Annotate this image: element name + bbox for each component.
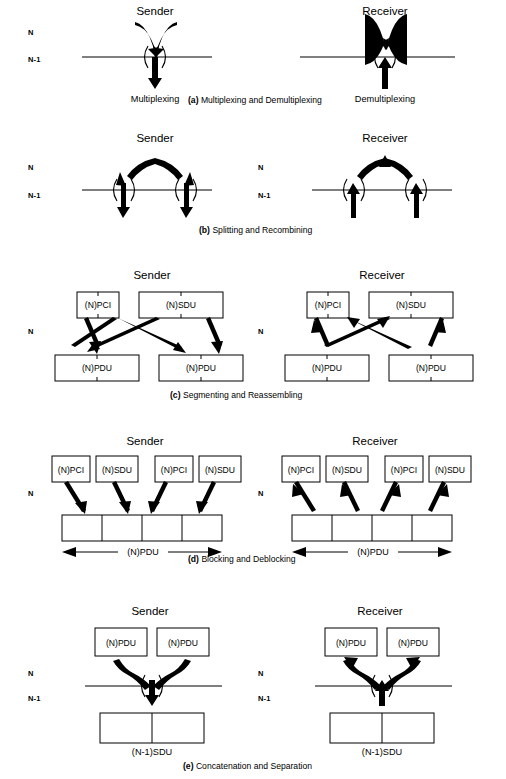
panel-a-layer-n: N [28,28,34,37]
panel-c-receiver-box-pdu-1: (N)PDU [312,363,342,373]
panel-e-concatenation: Sender Receiver N N-1 N N-1 (N)PDU (N)PD… [0,598,506,758]
panel-c-sender-box-pdu-1: (N)PDU [82,363,112,373]
panel-d-receiver-box-2: (N)SDU [332,465,362,475]
panel-c-receiver-title: Receiver [359,269,405,281]
panel-a-caption: (a) Multiplexing and Demultiplexing [188,96,322,105]
panel-b-receiver-graphic [312,155,452,218]
panel-d-receiver-graphic: (N)PCI (N)SDU (N)PCI (N)SDU (N)PDU [282,456,471,559]
panel-d-caption-text: Blocking and Deblocking [201,554,295,564]
panel-c-caption: (c) Segmenting and Reassembling [170,391,302,400]
panel-e-caption: (e) Concatenation and Separation [183,762,312,771]
panel-a-sender-graphic: Multiplexing [82,22,212,104]
panel-b-layer-n1: N-1 [28,191,41,200]
panel-c-caption-tag: (c) [170,390,181,400]
panel-b-sender-graphic [82,158,212,218]
panel-b-caption-tag: (b) [199,225,210,235]
panel-d-blocking: Sender Receiver N N (N)PCI (N)SDU (N)PCI… [0,428,506,563]
panel-b-layer-n-r: N [258,163,264,172]
panel-d-receiver-box-4: (N)SDU [435,465,465,475]
panel-e-sender-bottom-label: (N-1)SDU [132,747,172,757]
panel-d-sender-graphic: (N)PCI (N)SDU (N)PCI (N)SDU (N)PDU [52,456,241,559]
panel-a-receiver-op-label: Demultiplexing [355,94,415,104]
panel-c-receiver-graphic: (N)PCI (N)SDU (N)PDU (N)PDU [285,292,473,381]
panel-d-receiver-box-1: (N)PCI [288,465,314,475]
figure-root: Sender Receiver N N-1 Multiplexing Demul… [0,0,506,779]
panel-e-sender-title: Sender [131,605,168,617]
panel-a-sender-op-label: Multiplexing [131,94,180,104]
panel-c-layer-n-r: N [258,327,264,336]
panel-c-layer-n: N [28,327,34,336]
panel-e-sender-box-2: (N)PDU [168,638,198,648]
panel-e-sender-graphic: (N)PDU (N)PDU (N-1)SDU [85,628,222,757]
panel-e-layer-n-r: N [258,669,264,678]
panel-d-receiver-dim-label: (N)PDU [357,547,389,557]
panel-c-sender-title: Sender [133,269,170,281]
panel-d-caption: (d) Blocking and Deblocking [188,555,296,564]
panel-e-layer-n: N [28,669,34,678]
panel-a-receiver-graphic: Demultiplexing [300,14,455,104]
panel-d-layer-n: N [28,489,34,498]
panel-c-sender-graphic: (N)PCI (N)SDU (N)PDU (N)PDU [55,292,243,381]
panel-d-sender-title: Sender [126,435,163,447]
panel-e-receiver-box-1: (N)PDU [336,638,366,648]
panel-c-receiver-box-pci: (N)PCI [315,300,341,310]
panel-b-caption: (b) Splitting and Recombining [199,226,312,235]
panel-b-caption-text: Splitting and Recombining [212,225,312,235]
panel-d-sender-box-1: (N)PCI [58,465,84,475]
panel-b-layer-n: N [28,163,34,172]
panel-e-receiver-bottom-label: (N-1)SDU [362,747,402,757]
panel-e-receiver-graphic: (N)PDU (N)PDU (N-1)SDU [315,628,452,757]
panel-e-layer-n1-r: N-1 [258,694,271,703]
panel-a-caption-tag: (a) [188,95,199,105]
panel-b-layer-n1-r: N-1 [258,191,271,200]
panel-d-sender-box-3: (N)PCI [161,465,187,475]
panel-d-layer-n-r: N [258,489,264,498]
panel-d-sender-dim-label: (N)PDU [127,547,159,557]
panel-b-sender-title: Sender [136,132,173,144]
panel-a-layer-n1: N-1 [28,55,41,64]
panel-c-sender-box-pdu-2: (N)PDU [186,363,216,373]
panel-c-segmenting: Sender Receiver N N (N)PCI (N)SDU (N)PDU… [0,262,506,397]
panel-d-receiver-box-3: (N)PCI [391,465,417,475]
panel-a-receiver-title: Receiver [362,5,408,17]
panel-a-sender-title: Sender [136,5,173,17]
panel-d-sender-box-4: (N)SDU [205,465,235,475]
panel-c-sender-box-sdu: (N)SDU [166,300,196,310]
panel-c-receiver-box-sdu: (N)SDU [396,300,426,310]
panel-d-receiver-title: Receiver [352,435,398,447]
panel-e-layer-n1: N-1 [28,694,41,703]
panel-e-caption-text: Concatenation and Separation [196,761,312,771]
panel-c-sender-box-pci: (N)PCI [85,300,111,310]
panel-e-sender-box-1: (N)PDU [106,638,136,648]
panel-c-receiver-box-pdu-2: (N)PDU [416,363,446,373]
panel-b-receiver-title: Receiver [362,132,408,144]
panel-b-splitting: Sender Receiver N N-1 N N-1 [0,125,506,240]
panel-a-caption-text: Multiplexing and Demultiplexing [201,95,322,105]
panel-d-sender-box-2: (N)SDU [102,465,132,475]
panel-e-caption-tag: (e) [183,761,194,771]
panel-d-caption-tag: (d) [188,554,199,564]
panel-e-receiver-title: Receiver [357,605,403,617]
panel-e-receiver-box-2: (N)PDU [398,638,428,648]
panel-c-caption-text: Segmenting and Reassembling [183,390,302,400]
